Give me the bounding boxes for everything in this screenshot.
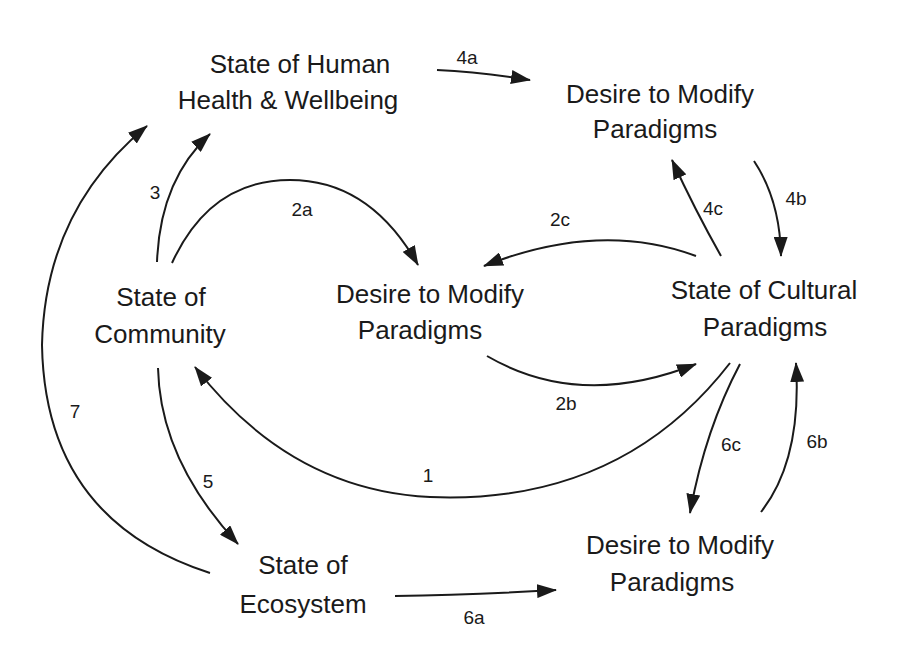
node-desire-bottom: Desire to Modify Paradigms <box>586 530 774 597</box>
edge-5-arrow <box>158 368 238 544</box>
node-ecosystem-line2: Ecosystem <box>239 589 366 619</box>
node-ecosystem: State of Ecosystem <box>239 550 366 619</box>
node-human-health-line2: Health & Wellbeing <box>178 85 399 115</box>
node-cultural: State of Cultural Paradigms <box>671 275 857 342</box>
edge-2b-label: 2b <box>555 393 576 414</box>
edge-6a-label: 6a <box>463 607 485 628</box>
node-desire-bottom-line2: Paradigms <box>610 567 734 597</box>
edge-6c-label: 6c <box>721 434 741 455</box>
edge-2c-label: 2c <box>550 209 570 230</box>
edge-2c-arrow <box>484 240 696 266</box>
node-cultural-line2: Paradigms <box>703 312 827 342</box>
edge-1-arrow <box>195 363 730 497</box>
edge-4b-label: 4b <box>785 188 806 209</box>
node-desire-bottom-line1: Desire to Modify <box>586 530 774 560</box>
node-desire-top-line2: Paradigms <box>593 114 717 144</box>
node-desire-top-line1: Desire to Modify <box>566 79 754 109</box>
node-ecosystem-line1: State of <box>258 550 348 580</box>
edge-3-label: 3 <box>150 182 161 203</box>
edge-6b-label: 6b <box>806 431 827 452</box>
edge-4a-arrow <box>437 70 530 80</box>
edge-5-label: 5 <box>203 471 214 492</box>
node-community: State of Community <box>94 282 225 349</box>
edge-6b-arrow <box>761 363 797 512</box>
edge-7-label: 7 <box>70 401 81 422</box>
edge-2a-label: 2a <box>291 199 313 220</box>
edge-6a-arrow <box>395 590 556 596</box>
node-desire-middle-line2: Paradigms <box>358 315 482 345</box>
edge-4a-label: 4a <box>456 47 478 68</box>
node-cultural-line1: State of Cultural <box>671 275 857 305</box>
edge-2a-arrow <box>172 180 418 265</box>
node-community-line2: Community <box>94 319 225 349</box>
edge-4c-label: 4c <box>703 198 723 219</box>
edge-1-label: 1 <box>423 465 434 486</box>
node-desire-middle-line1: Desire to Modify <box>336 279 524 309</box>
node-desire-middle: Desire to Modify Paradigms <box>336 279 524 345</box>
node-community-line1: State of <box>116 282 206 312</box>
node-human-health-line1: State of Human <box>210 49 391 79</box>
node-desire-top: Desire to Modify Paradigms <box>566 79 754 144</box>
edge-2b-arrow <box>487 356 696 385</box>
edge-4b-arrow <box>754 161 781 256</box>
node-human-health: State of Human Health & Wellbeing <box>178 49 399 115</box>
edge-7-arrow <box>42 126 210 573</box>
causal-loop-diagram: State of Human Health & Wellbeing Desire… <box>0 0 909 661</box>
